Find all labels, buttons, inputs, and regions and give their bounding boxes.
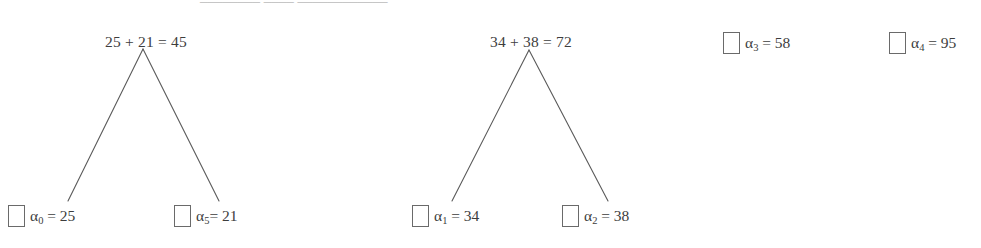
tree-1-edge-0 <box>68 49 143 201</box>
leaf-a2-label: α2 = 38 <box>584 208 629 224</box>
leaf-a1-checkbox[interactable] <box>412 205 429 227</box>
tree-2-edge-0 <box>452 50 529 201</box>
leaf-a2[interactable]: α2 = 38 <box>562 205 629 227</box>
tree-1-root-label: 25 + 21 = 45 <box>105 34 187 50</box>
leaf-a1-label: α1 = 34 <box>434 208 479 224</box>
leaf-a5-checkbox[interactable] <box>174 205 191 227</box>
leaf-a1[interactable]: α1 = 34 <box>412 205 479 227</box>
tree-2-edge-1 <box>529 50 608 201</box>
node-a4-label: α4 = 95 <box>911 35 956 51</box>
leaf-a5-label: α5= 21 <box>196 208 238 224</box>
node-a4[interactable]: α4 = 95 <box>889 32 956 54</box>
leaf-a2-checkbox[interactable] <box>562 205 579 227</box>
node-a3-checkbox[interactable] <box>723 32 740 54</box>
clipped-caption-text: ________ ____ ____________ <box>200 0 388 5</box>
node-a3-label: α3 = 58 <box>745 35 790 51</box>
leaf-a0-label: α0 = 25 <box>30 208 75 224</box>
tree-1-edge-1 <box>143 49 219 201</box>
tree-2-root-label: 34 + 38 = 72 <box>490 34 572 50</box>
leaf-a5[interactable]: α5= 21 <box>174 205 238 227</box>
figure-canvas: ________ ____ ____________ 25 + 21 = 45α… <box>0 0 981 248</box>
leaf-a0[interactable]: α0 = 25 <box>8 205 75 227</box>
node-a3[interactable]: α3 = 58 <box>723 32 790 54</box>
leaf-a0-checkbox[interactable] <box>8 205 25 227</box>
clipped-caption-strip: ________ ____ ____________ <box>0 0 981 7</box>
node-a4-checkbox[interactable] <box>889 32 906 54</box>
